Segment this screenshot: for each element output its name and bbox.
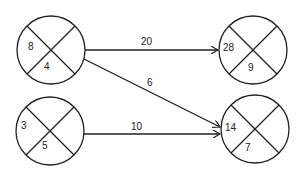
edge-a-c-label: 20	[141, 36, 153, 47]
edge-a-d	[84, 59, 220, 127]
node-b	[16, 97, 84, 165]
node-b-left: 3	[21, 120, 27, 131]
edge-a-d-label: 6	[147, 77, 153, 88]
node-c-bottom: 9	[248, 62, 254, 73]
node-d-left: 14	[225, 122, 237, 133]
edge-b-d-label: 10	[131, 121, 143, 132]
node-a-bottom: 4	[44, 61, 50, 72]
node-a-left: 8	[28, 41, 34, 52]
node-b-bottom: 5	[42, 140, 48, 151]
network-diagram: 8 4 3 5 28 9 14 7 20 6 10	[0, 0, 303, 171]
node-c-left: 28	[223, 42, 235, 53]
node-d-bottom: 7	[245, 142, 251, 153]
